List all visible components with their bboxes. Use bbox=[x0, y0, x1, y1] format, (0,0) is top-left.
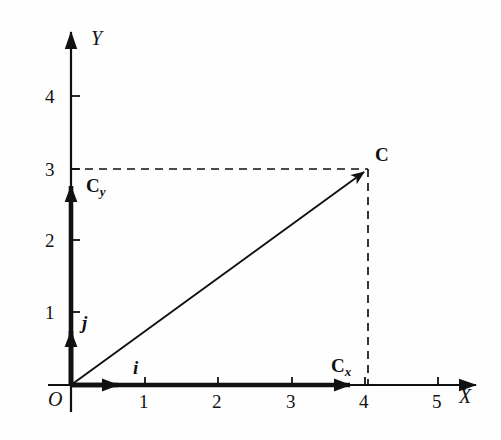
unit-vector-j-label: j bbox=[82, 313, 87, 332]
vector-cx-label: Cx bbox=[331, 356, 351, 378]
y-tick-label-2: 2 bbox=[45, 231, 55, 250]
y-tick-label-3: 3 bbox=[45, 160, 55, 179]
x-tick-label-3: 3 bbox=[286, 392, 296, 411]
diagram-canvas bbox=[0, 0, 501, 440]
vector-cx-label-sub: x bbox=[345, 364, 352, 379]
unit-vector-i-label: i bbox=[133, 358, 138, 377]
x-tick-label-1: 1 bbox=[139, 392, 149, 411]
vector-cy-label: Cy bbox=[86, 176, 106, 198]
vector-c-arrow bbox=[71, 172, 364, 385]
vector-cy-label-sub: y bbox=[100, 184, 106, 199]
x-tick-label-2: 2 bbox=[212, 392, 222, 411]
x-tick-label-4: 4 bbox=[359, 392, 369, 411]
x-axis-label: X bbox=[459, 386, 471, 406]
x-tick-label-5: 5 bbox=[432, 392, 442, 411]
y-tick-label-1: 1 bbox=[45, 303, 55, 322]
vector-cy-label-main: C bbox=[86, 175, 100, 196]
vector-c-label: C bbox=[375, 145, 389, 164]
y-tick-label-4: 4 bbox=[45, 87, 55, 106]
origin-label: O bbox=[48, 389, 62, 409]
y-axis-label: Y bbox=[91, 28, 102, 48]
vector-cx-label-main: C bbox=[331, 355, 345, 376]
vector-diagram-figure: Y X O 1 2 3 4 5 1 2 3 4 C Cx Cy i j bbox=[0, 0, 501, 440]
